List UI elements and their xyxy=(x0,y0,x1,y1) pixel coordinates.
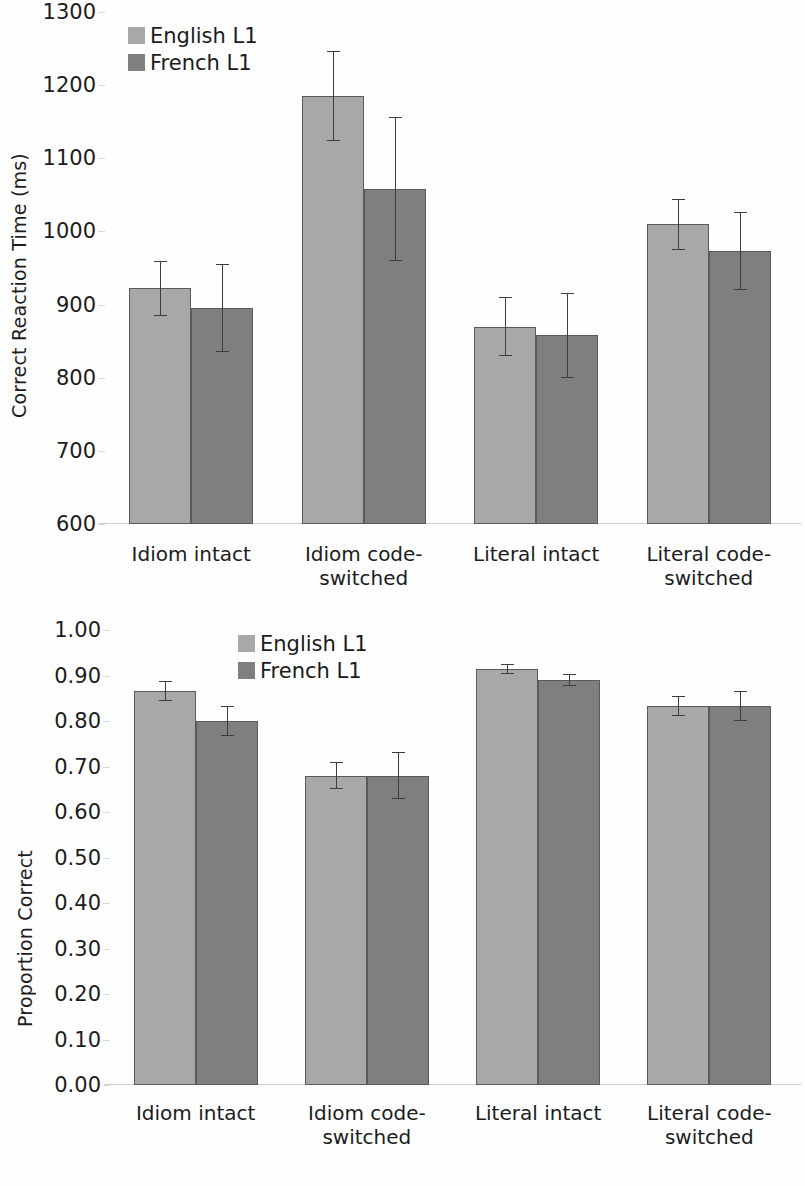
x-axis-label-line: Literal code- xyxy=(623,542,796,566)
y-axis-tick-mark xyxy=(98,524,105,525)
bar-group xyxy=(281,630,452,1085)
legend-swatch-icon xyxy=(128,54,145,71)
x-axis-label-line: switched xyxy=(624,1125,795,1149)
bar-group xyxy=(453,630,624,1085)
error-bar xyxy=(227,706,228,735)
legend-label: English L1 xyxy=(260,632,368,656)
error-bar xyxy=(222,264,223,352)
bar-literal-code-switched-english-l1 xyxy=(647,706,709,1085)
error-bar xyxy=(678,696,679,717)
plot-area-proportion-correct: 1.000.900.800.700.600.500.400.300.200.10… xyxy=(110,630,795,1085)
legend-item-english-l1: English L1 xyxy=(238,630,368,657)
legend-swatch-icon xyxy=(128,27,145,44)
y-axis-tick-mark xyxy=(103,812,110,813)
y-axis-tick-label: 0.30 xyxy=(54,937,110,961)
figure-two-panel-bar-chart: Correct Reaction Time (ms) 1300120011001… xyxy=(0,0,805,1186)
y-axis-title-reaction-time: Correct Reaction Time (ms) xyxy=(8,118,30,418)
y-axis-tick-mark xyxy=(103,1040,110,1041)
error-bar xyxy=(336,762,337,789)
y-axis-tick-mark xyxy=(98,12,105,13)
y-axis-tick-label: 1000 xyxy=(43,219,105,243)
error-bar xyxy=(395,117,396,260)
x-axis-category-label: Literal intact xyxy=(453,1101,624,1125)
bar-literal-intact-french-l1 xyxy=(538,680,600,1085)
bar-group xyxy=(450,12,623,524)
y-axis-tick-mark xyxy=(103,630,110,631)
bar-idiom-code-switched-english-l1 xyxy=(302,96,364,524)
y-axis-tick-mark xyxy=(103,994,110,995)
y-axis-tick-mark xyxy=(103,1085,110,1086)
x-axis-label-line: Literal intact xyxy=(450,542,623,566)
error-bar xyxy=(505,297,506,356)
error-bar xyxy=(740,691,741,720)
x-axis-label-line: Idiom intact xyxy=(105,542,278,566)
y-axis-tick-label: 0.70 xyxy=(54,755,110,779)
y-axis-tick-label: 0.10 xyxy=(54,1028,110,1052)
x-axis-label-line: Literal intact xyxy=(453,1101,624,1125)
bar-literal-code-switched-french-l1 xyxy=(709,251,771,524)
bar-idiom-intact-english-l1 xyxy=(134,691,196,1085)
x-axis-label-line: switched xyxy=(281,1125,452,1149)
x-axis-category-label: Literal code-switched xyxy=(623,542,796,591)
error-bar xyxy=(398,752,399,798)
y-axis-tick-label: 0.50 xyxy=(54,846,110,870)
legend-proportion-correct: English L1French L1 xyxy=(238,630,368,684)
x-axis-label-line: switched xyxy=(278,566,451,590)
error-bar xyxy=(160,261,161,317)
bar-group xyxy=(110,630,281,1085)
legend-swatch-icon xyxy=(238,635,255,652)
plot-area-reaction-time: 1300120011001000900800700600 xyxy=(105,12,795,524)
bar-group xyxy=(105,12,278,524)
y-axis-title-proportion-correct: Proportion Correct xyxy=(14,797,36,1027)
legend-item-french-l1: French L1 xyxy=(238,657,368,684)
y-axis-tick-mark xyxy=(103,858,110,859)
bar-literal-intact-english-l1 xyxy=(474,327,536,524)
bar-idiom-intact-english-l1 xyxy=(129,288,191,524)
x-axis-category-label: Idiom code-switched xyxy=(281,1101,452,1150)
error-bar xyxy=(507,664,508,674)
y-axis-tick-label: 0.40 xyxy=(54,891,110,915)
legend-label: English L1 xyxy=(150,24,258,48)
legend-item-english-l1: English L1 xyxy=(128,22,258,49)
y-axis-tick-label: 1200 xyxy=(43,73,105,97)
error-bar xyxy=(678,199,679,250)
y-axis-tick-mark xyxy=(103,767,110,768)
y-axis-tick-mark xyxy=(103,721,110,722)
bar-group xyxy=(624,630,795,1085)
x-axis-label-line: Literal code- xyxy=(624,1101,795,1125)
bar-literal-code-switched-french-l1 xyxy=(709,706,771,1085)
bar-idiom-code-switched-english-l1 xyxy=(305,776,367,1085)
y-axis-tick-label: 0.90 xyxy=(54,664,110,688)
y-axis-tick-label: 0.20 xyxy=(54,982,110,1006)
panel-proportion-correct: Proportion Correct 1.000.900.800.700.600… xyxy=(0,612,805,1186)
y-axis-tick-mark xyxy=(98,305,105,306)
bar-group xyxy=(278,12,451,524)
x-axis-category-label: Idiom code-switched xyxy=(278,542,451,591)
y-axis-tick-mark xyxy=(103,903,110,904)
x-axis-category-label: Literal intact xyxy=(450,542,623,566)
y-axis-tick-mark xyxy=(98,85,105,86)
bar-idiom-code-switched-french-l1 xyxy=(367,776,429,1085)
y-axis-tick-label: 1100 xyxy=(43,146,105,170)
y-axis-tick-mark xyxy=(98,378,105,379)
y-axis-tick-label: 0.00 xyxy=(54,1073,110,1097)
error-bar xyxy=(567,293,568,378)
legend-item-french-l1: French L1 xyxy=(128,49,258,76)
y-axis-tick-label: 1300 xyxy=(43,0,105,24)
legend-swatch-icon xyxy=(238,662,255,679)
bar-literal-intact-english-l1 xyxy=(476,669,538,1085)
x-axis-label-line: switched xyxy=(623,566,796,590)
legend-label: French L1 xyxy=(150,51,252,75)
bar-group xyxy=(623,12,796,524)
y-axis-tick-mark xyxy=(103,949,110,950)
y-axis-tick-mark xyxy=(98,158,105,159)
error-bar xyxy=(740,212,741,290)
bar-idiom-intact-french-l1 xyxy=(196,721,258,1085)
y-axis-tick-mark xyxy=(98,451,105,452)
y-axis-tick-label: 0.80 xyxy=(54,709,110,733)
x-axis-category-label: Literal code-switched xyxy=(624,1101,795,1150)
y-axis-tick-label: 1.00 xyxy=(54,618,110,642)
y-axis-tick-label: 0.60 xyxy=(54,800,110,824)
x-axis-label-line: Idiom code- xyxy=(281,1101,452,1125)
legend-label: French L1 xyxy=(260,659,362,683)
